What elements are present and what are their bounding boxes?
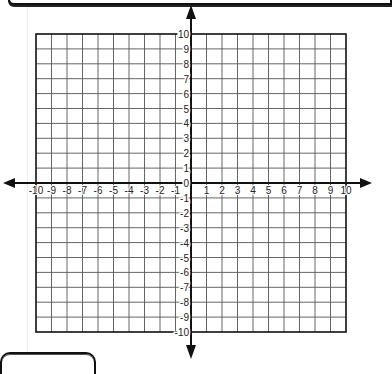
arrow-up-icon (186, 5, 196, 19)
y-tick-label: -6 (180, 267, 189, 278)
y-tick-label: -4 (180, 238, 189, 249)
y-tick-label: 5 (183, 104, 189, 115)
arrow-down-icon (186, 345, 196, 359)
x-tick-label: -8 (63, 185, 72, 196)
x-tick-label: 1 (204, 185, 210, 196)
x-tick-label: 3 (235, 185, 241, 196)
arrow-left-icon (3, 178, 15, 188)
x-tick-label: -10 (29, 185, 44, 196)
y-tick-label: 7 (183, 74, 189, 85)
y-tick-label: -9 (180, 312, 189, 323)
x-tick-label: 4 (250, 185, 256, 196)
x-tick-label: -4 (125, 185, 134, 196)
y-tick-label: 4 (183, 118, 189, 129)
y-tick-label: 2 (183, 148, 189, 159)
y-tick-label: 8 (183, 59, 189, 70)
y-tick-label: -5 (180, 253, 189, 264)
y-tick-label: -8 (180, 297, 189, 308)
x-tick-label: -1 (171, 185, 180, 196)
x-tick-label: -6 (94, 185, 103, 196)
bottom-tab-frame (0, 352, 96, 374)
y-tick-label: 1 (183, 163, 189, 174)
y-tick-label: 3 (183, 133, 189, 144)
y-tick-label: -10 (175, 327, 190, 338)
arrow-right-icon (360, 178, 372, 188)
y-tick-label: 10 (178, 29, 190, 40)
y-tick-label: -2 (180, 208, 189, 219)
y-tick-label: 6 (183, 89, 189, 100)
x-tick-label: 7 (297, 185, 303, 196)
x-tick-label: 2 (219, 185, 225, 196)
y-tick-label: 0 (183, 178, 189, 189)
x-tick-label: -3 (140, 185, 149, 196)
y-tick-label: -7 (180, 282, 189, 293)
x-tick-label: -5 (109, 185, 118, 196)
y-tick-label: -3 (180, 223, 189, 234)
x-tick-label: 5 (266, 185, 272, 196)
x-tick-label: 8 (312, 185, 318, 196)
x-tick-label: 10 (340, 185, 352, 196)
x-tick-label: -7 (78, 185, 87, 196)
x-tick-label: -2 (156, 185, 165, 196)
x-tick-label: 6 (281, 185, 287, 196)
x-tick-label: -9 (47, 185, 56, 196)
y-tick-label: 9 (183, 44, 189, 55)
x-tick-label: 9 (328, 185, 334, 196)
y-tick-label: -1 (180, 193, 189, 204)
